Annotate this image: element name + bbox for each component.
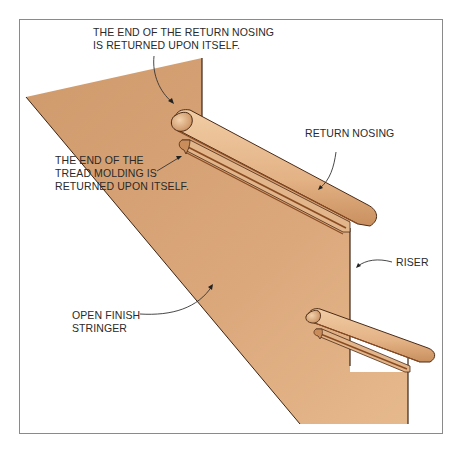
label-line: THE END OF THE RETURN NOSING bbox=[93, 26, 274, 38]
leader-riser bbox=[358, 260, 392, 266]
label-return-nosing-end: THE END OF THE RETURN NOSINGIS RETURNED … bbox=[93, 26, 274, 52]
label-line: THE END OF THE bbox=[55, 154, 144, 166]
label-open-finish-stringer: OPEN FINISHSTRINGER bbox=[72, 309, 140, 335]
label-line: IS RETURNED UPON ITSELF. bbox=[93, 39, 240, 51]
stair-illustration bbox=[0, 0, 456, 449]
label-line: TREAD MOLDING IS bbox=[55, 167, 157, 179]
label-return-nosing: RETURN NOSING bbox=[305, 127, 394, 140]
stringer-wall bbox=[26, 58, 408, 424]
label-line: RETURNED UPON ITSELF. bbox=[55, 180, 189, 192]
label-line: STRINGER bbox=[72, 322, 127, 334]
label-riser: RISER bbox=[396, 256, 429, 269]
label-line: OPEN FINISH bbox=[72, 309, 140, 321]
label-tread-molding-end: THE END OF THETREAD MOLDING ISRETURNED U… bbox=[55, 154, 189, 193]
